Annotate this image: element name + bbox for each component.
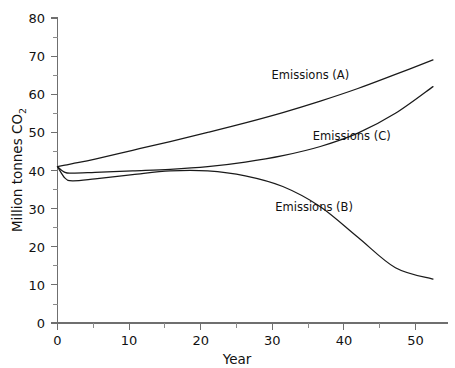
y-axis-title-main: Million tonnes CO xyxy=(9,114,25,232)
annotation-emissions-a: Emissions (A) xyxy=(272,68,350,82)
svg-text:Million tonnes CO2: Million tonnes CO2 xyxy=(9,108,28,232)
y-tick-label: 50 xyxy=(28,125,45,140)
y-tick-label: 20 xyxy=(28,240,45,255)
x-tick-label: 30 xyxy=(264,333,281,348)
y-axis-major-ticks xyxy=(51,18,58,323)
x-axis-tick-labels: 0 10 20 30 40 50 xyxy=(53,333,423,348)
line-chart: 80 70 60 50 40 30 20 10 0 xyxy=(0,0,455,368)
y-tick-label: 80 xyxy=(28,11,45,26)
x-axis-minor-ticks xyxy=(93,323,379,328)
x-tick-label: 20 xyxy=(192,333,209,348)
y-tick-label: 70 xyxy=(28,49,45,64)
y-tick-label: 60 xyxy=(28,87,45,102)
y-tick-label: 0 xyxy=(37,316,45,331)
x-tick-label: 40 xyxy=(336,333,353,348)
annotation-emissions-c: Emissions (C) xyxy=(313,129,391,143)
y-axis-tick-labels: 80 70 60 50 40 30 20 10 0 xyxy=(28,11,45,331)
chart-container: 80 70 60 50 40 30 20 10 0 xyxy=(0,0,455,368)
x-tick-label: 0 xyxy=(53,333,61,348)
x-axis-title: Year xyxy=(222,351,252,367)
x-tick-label: 50 xyxy=(407,333,424,348)
y-axis-title: Million tonnes CO2 xyxy=(9,108,28,232)
y-axis-title-subscript: 2 xyxy=(17,108,28,114)
y-tick-label: 30 xyxy=(28,202,45,217)
y-tick-label: 10 xyxy=(28,278,45,293)
series-line-emissions-a xyxy=(58,60,433,167)
y-tick-label: 40 xyxy=(28,164,45,179)
x-tick-label: 10 xyxy=(121,333,138,348)
annotation-emissions-b: Emissions (B) xyxy=(275,200,353,214)
series-line-emissions-b xyxy=(58,167,433,279)
